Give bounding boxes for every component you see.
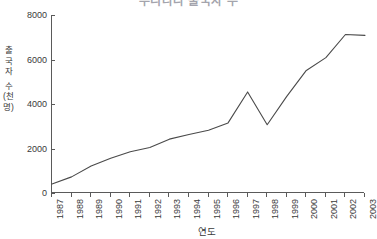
x-tick-label: 1992	[153, 199, 163, 219]
x-tick-label: 1993	[172, 199, 182, 219]
chart-container: 우리나라 출국자 수 출 국 자 수 (천 명) 020004000600080…	[0, 0, 377, 239]
x-tick-label: 2002	[348, 199, 358, 219]
data-line-chart	[52, 15, 365, 193]
x-tick-mark	[110, 193, 111, 197]
series-line	[52, 35, 365, 184]
x-tick-label: 1999	[290, 199, 300, 219]
x-tick-label: 1987	[55, 199, 65, 219]
x-tick-mark	[344, 193, 345, 197]
x-tick-label: 1988	[75, 199, 85, 219]
x-tick-label: 1989	[94, 199, 104, 219]
x-axis-title: 연도	[185, 224, 229, 238]
y-tick-label: 4000	[3, 99, 47, 109]
x-tick-label: 1990	[114, 199, 124, 219]
x-tick-mark	[325, 193, 326, 197]
x-tick-mark	[227, 193, 228, 197]
x-tick-label: 1994	[192, 199, 202, 219]
x-tick-label: 1995	[212, 199, 222, 219]
y-axis-ticks: 02000400060008000	[0, 15, 47, 193]
x-tick-mark	[168, 193, 169, 197]
x-tick-mark	[188, 193, 189, 197]
x-tick-label: 1991	[133, 199, 143, 219]
chart-title: 우리나라 출국자 수	[0, 0, 377, 8]
x-tick-mark	[51, 193, 52, 197]
x-tick-mark	[149, 193, 150, 197]
x-tick-mark	[90, 193, 91, 197]
x-tick-mark	[129, 193, 130, 197]
x-tick-mark	[286, 193, 287, 197]
x-tick-label: 2001	[329, 199, 339, 219]
y-tick-label: 0	[3, 188, 47, 198]
x-tick-mark	[247, 193, 248, 197]
x-tick-mark	[208, 193, 209, 197]
x-tick-mark	[364, 193, 365, 197]
x-tick-label: 2000	[309, 199, 319, 219]
x-tick-label: 1996	[231, 199, 241, 219]
x-tick-mark	[71, 193, 72, 197]
y-tick-label: 6000	[3, 55, 47, 65]
x-tick-label: 2003	[368, 199, 377, 219]
plot-area	[51, 15, 364, 193]
y-tick-label: 2000	[3, 144, 47, 154]
x-tick-mark	[305, 193, 306, 197]
x-tick-mark	[266, 193, 267, 197]
x-tick-label: 1998	[270, 199, 280, 219]
y-tick-label: 8000	[3, 10, 47, 20]
x-tick-label: 1997	[251, 199, 261, 219]
